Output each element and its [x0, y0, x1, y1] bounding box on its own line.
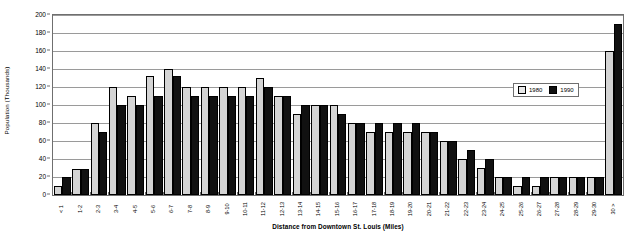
- x-axis-tick-label-text: 4-5: [132, 205, 138, 213]
- x-axis-tick-label-text: 6-7: [169, 205, 175, 213]
- y-axis-tick-mark: [47, 176, 50, 177]
- bar-1990: [412, 123, 420, 195]
- legend-label-1980: 1980: [529, 87, 542, 93]
- bar-1980: [477, 168, 485, 195]
- y-axis-title: Population (Thousands): [0, 0, 14, 200]
- x-axis-tick-label-text: 22-23: [463, 202, 469, 216]
- bar-1980: [54, 186, 62, 195]
- bar-group: [531, 15, 549, 195]
- bar-1990: [99, 132, 107, 195]
- bar-1980: [182, 87, 190, 195]
- y-axis-tick-mark: [47, 158, 50, 159]
- x-axis-tick-label-text: 26-27: [536, 202, 542, 216]
- bar-group: [218, 15, 236, 195]
- x-axis-tick-label-text: 20-21: [426, 202, 432, 216]
- bar-group: [310, 15, 328, 195]
- legend-item-1980: 1980: [518, 86, 542, 94]
- bar-1980: [605, 51, 613, 195]
- y-axis-tick-mark: [47, 32, 50, 33]
- bar-group: [549, 15, 567, 195]
- bar-group: [255, 15, 273, 195]
- bar-1980: [311, 105, 319, 195]
- bar-1980: [532, 186, 540, 195]
- bar-group: [163, 15, 181, 195]
- bar-1990: [209, 96, 217, 195]
- legend-swatch-1990: [549, 86, 557, 94]
- bar-group: [494, 15, 512, 195]
- x-axis-tick-label-text: 21-22: [444, 202, 450, 216]
- y-axis-tick-labels: 020406080100120140160180200: [20, 14, 50, 196]
- bar-group: [402, 15, 420, 195]
- bar-group: [605, 15, 623, 195]
- bar-1980: [550, 177, 558, 195]
- bar-group: [90, 15, 108, 195]
- x-axis-tick-label-text: < 1: [58, 205, 64, 213]
- bar-1990: [448, 141, 456, 195]
- bar-1990: [375, 123, 383, 195]
- bar-1990: [191, 96, 199, 195]
- legend-swatch-1980: [518, 86, 526, 94]
- plot-area: [52, 14, 624, 196]
- bar-1980: [91, 123, 99, 195]
- bar-1990: [485, 159, 493, 195]
- x-axis-tick-label-text: 19-20: [408, 202, 414, 216]
- bar-group: [329, 15, 347, 195]
- bar-1980: [513, 186, 521, 195]
- y-axis-tick-label: 0: [42, 191, 46, 198]
- bar-group: [586, 15, 604, 195]
- bar-group: [568, 15, 586, 195]
- x-axis-tick-label-text: 16-17: [352, 202, 358, 216]
- bar-1990: [228, 96, 236, 195]
- y-axis-tick-mark: [47, 50, 50, 51]
- bar-1980: [440, 141, 448, 195]
- bar-1990: [301, 105, 309, 195]
- bar-group: [513, 15, 531, 195]
- y-axis-tick-mark: [47, 140, 50, 141]
- y-axis-tick-mark: [47, 104, 50, 105]
- bar-1980: [421, 132, 429, 195]
- bar-1980: [127, 96, 135, 195]
- x-axis-title: Distance from Downtown St. Louis (Miles): [52, 223, 624, 230]
- bar-1990: [430, 132, 438, 195]
- y-axis-tick-label: 180: [35, 29, 46, 36]
- y-axis-tick-label: 80: [39, 119, 46, 126]
- x-axis-tick-label: 30 >: [600, 197, 626, 215]
- x-axis-tick-label-text: 14-15: [316, 202, 322, 216]
- bar-group: [439, 15, 457, 195]
- bar-1990: [503, 177, 511, 195]
- x-axis-tick-label-text: 30 >: [610, 203, 616, 214]
- bar-group: [145, 15, 163, 195]
- x-axis-tick-label-text: 13-14: [297, 202, 303, 216]
- bar-1980: [587, 177, 595, 195]
- chart-legend: 1980 1990: [513, 83, 579, 97]
- x-axis-tick-mark: [623, 192, 624, 195]
- population-by-distance-bar-chart: Population (Thousands) 02040608010012014…: [0, 0, 628, 239]
- bar-group: [476, 15, 494, 195]
- bar-1990: [577, 177, 585, 195]
- bar-1980: [201, 87, 209, 195]
- y-axis-tick-mark: [47, 86, 50, 87]
- bar-group: [200, 15, 218, 195]
- y-axis-tick-mark: [47, 68, 50, 69]
- x-axis-tick-label-text: 15-16: [334, 202, 340, 216]
- y-axis-tick-mark: [47, 194, 50, 195]
- bar-group: [458, 15, 476, 195]
- bar-1980: [366, 132, 374, 195]
- y-axis-tick-mark: [47, 122, 50, 123]
- bar-1990: [264, 87, 272, 195]
- bar-group: [421, 15, 439, 195]
- y-axis-tick-mark: [47, 14, 50, 15]
- bar-1990: [338, 114, 346, 195]
- y-axis-tick-label: 140: [35, 65, 46, 72]
- y-axis-tick-label: 200: [35, 11, 46, 18]
- bar-group: [384, 15, 402, 195]
- x-axis-tick-label-text: 28-29: [573, 202, 579, 216]
- bar-1990: [356, 123, 364, 195]
- x-axis-tick-label-text: 18-19: [389, 202, 395, 216]
- bar-1980: [385, 132, 393, 195]
- bar-1980: [495, 177, 503, 195]
- y-axis-tick-label: 100: [35, 101, 46, 108]
- bar-1990: [246, 96, 254, 195]
- y-axis-tick-label: 60: [39, 137, 46, 144]
- x-axis-tick-label-text: 29-30: [591, 202, 597, 216]
